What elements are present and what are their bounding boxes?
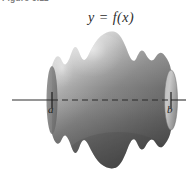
axis-label-b: b: [167, 103, 173, 115]
figure-container: Figure 6.11: [0, 0, 188, 180]
axis-label-a: a: [48, 103, 54, 115]
function-label: y = f(x): [88, 10, 134, 26]
axis-of-revolution: [0, 0, 188, 180]
